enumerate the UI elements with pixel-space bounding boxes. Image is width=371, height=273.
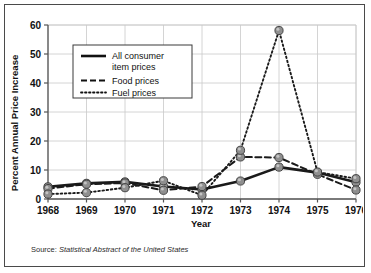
- y-axis-title: Percent Annual Price Increase: [9, 55, 20, 191]
- y-tick-label: 30: [30, 107, 42, 118]
- x-tick-label: 1976: [345, 205, 363, 216]
- legend-label-all-consumer-line2: item prices: [112, 62, 156, 72]
- data-point-marker: [159, 186, 167, 194]
- y-tick-label: 50: [30, 49, 42, 60]
- data-point-highlight: [276, 28, 279, 31]
- data-point-marker: [159, 177, 167, 185]
- y-tick-label: 10: [30, 165, 42, 176]
- y-tick-label: 20: [30, 136, 42, 147]
- x-tick-label: 1975: [306, 205, 329, 216]
- source-citation: Statistical Abstract of the United State…: [59, 245, 188, 254]
- x-tick-label: 1968: [37, 205, 60, 216]
- data-point-highlight: [84, 190, 87, 193]
- data-point-highlight: [84, 181, 87, 184]
- y-tick-label: 60: [30, 20, 42, 31]
- data-point-marker: [236, 146, 244, 154]
- data-point-highlight: [276, 164, 279, 167]
- data-point-marker: [121, 184, 129, 192]
- data-point-marker: [236, 177, 244, 185]
- data-point-highlight: [45, 191, 48, 194]
- data-point-highlight: [161, 188, 164, 191]
- legend-label-food: Food prices: [112, 76, 160, 86]
- data-point-highlight: [238, 178, 241, 181]
- x-axis-title: Year: [191, 218, 211, 229]
- data-point-highlight: [315, 169, 318, 172]
- chart-frame: 0102030405060196819691970197119721973197…: [4, 4, 365, 267]
- y-tick-label: 0: [35, 194, 41, 205]
- data-point-marker: [275, 153, 283, 161]
- data-point-highlight: [161, 178, 164, 181]
- data-point-highlight: [199, 192, 202, 195]
- data-point-marker: [352, 186, 360, 194]
- data-point-marker: [198, 191, 206, 199]
- data-point-highlight: [45, 186, 48, 189]
- x-tick-label: 1970: [114, 205, 137, 216]
- legend-label-all-consumer-line1: All consumer: [112, 51, 164, 61]
- x-tick-label: 1972: [191, 205, 214, 216]
- source-note: Source: Statistical Abstract of the Unit…: [31, 245, 188, 254]
- data-point-highlight: [276, 155, 279, 158]
- data-point-marker: [313, 168, 321, 176]
- data-point-marker: [82, 180, 90, 188]
- legend-label-fuel: Fuel prices: [112, 88, 157, 98]
- data-point-marker: [275, 26, 283, 34]
- data-point-marker: [82, 189, 90, 197]
- data-point-marker: [198, 182, 206, 190]
- x-tick-label: 1974: [268, 205, 291, 216]
- price-increase-line-chart: 0102030405060196819691970197119721973197…: [5, 5, 363, 265]
- x-tick-label: 1971: [152, 205, 175, 216]
- source-prefix: Source:: [31, 245, 59, 254]
- data-point-highlight: [353, 176, 356, 179]
- data-point-marker: [352, 175, 360, 183]
- data-point-highlight: [238, 147, 241, 150]
- chart-legend: All consumer item prices Food prices Fue…: [73, 45, 192, 98]
- data-point-marker: [44, 190, 52, 198]
- data-point-highlight: [122, 185, 125, 188]
- data-point-highlight: [199, 184, 202, 187]
- y-tick-label: 40: [30, 78, 42, 89]
- data-point-highlight: [353, 187, 356, 190]
- x-tick-label: 1973: [229, 205, 252, 216]
- x-tick-label: 1969: [75, 205, 98, 216]
- data-point-highlight: [122, 180, 125, 183]
- data-point-marker: [275, 163, 283, 171]
